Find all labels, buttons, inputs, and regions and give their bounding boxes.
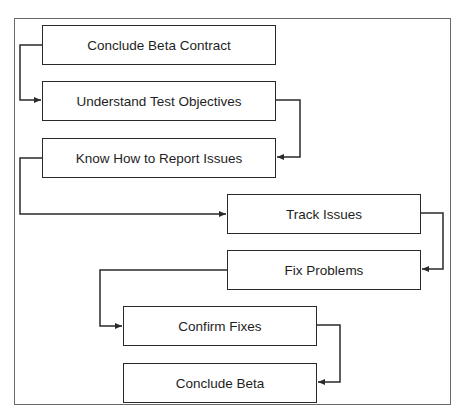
- step-conclude-beta-contract: Conclude Beta Contract: [42, 25, 276, 65]
- step-conclude-beta: Conclude Beta: [123, 363, 317, 403]
- arrow-s1-s2: [20, 45, 42, 100]
- step-label: Conclude Beta Contract: [87, 38, 230, 53]
- step-label: Conclude Beta: [176, 376, 265, 391]
- arrow-s6-s7: [317, 325, 340, 382]
- step-label: Confirm Fixes: [178, 319, 261, 334]
- step-label: Fix Problems: [285, 263, 364, 278]
- step-understand-test-objectives: Understand Test Objectives: [42, 81, 276, 121]
- step-know-how-to-report-issues: Know How to Report Issues: [42, 138, 276, 178]
- arrow-s2-s3: [276, 100, 300, 157]
- step-label: Understand Test Objectives: [77, 94, 242, 109]
- arrow-s4-s5: [421, 213, 443, 269]
- step-label: Know How to Report Issues: [76, 151, 243, 166]
- step-confirm-fixes: Confirm Fixes: [123, 306, 317, 346]
- step-label: Track Issues: [286, 207, 362, 222]
- step-fix-problems: Fix Problems: [227, 250, 421, 290]
- step-track-issues: Track Issues: [227, 194, 421, 234]
